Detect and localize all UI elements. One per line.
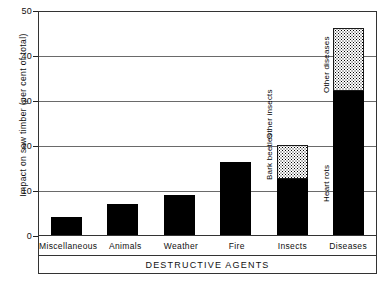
y-tick-label-10: 10	[8, 186, 32, 196]
bar-segment-other-insects	[277, 145, 308, 179]
x-category-animals: Animals	[97, 236, 153, 255]
y-tick-label-50: 50	[8, 6, 32, 16]
bar-segment-fire	[220, 162, 251, 235]
x-category-diseases: Diseases	[320, 236, 376, 255]
y-tick-label-20: 20	[8, 141, 32, 151]
x-axis-category-strip: Miscellaneous Animals Weather Fire Insec…	[38, 236, 377, 256]
bar-miscellaneous	[51, 217, 82, 235]
segment-label-heart-rots: Heart rots	[322, 165, 331, 202]
bar-animals	[107, 204, 138, 235]
bar-insects	[277, 145, 308, 235]
y-tick-label-40: 40	[8, 51, 32, 61]
bar-segment-bark-beetles	[277, 179, 308, 235]
x-category-fire: Fire	[209, 236, 265, 255]
plot-area: Bark beetles Other insects Heart rots Ot…	[38, 11, 377, 236]
bar-segment-miscellaneous	[51, 217, 82, 235]
bar-segment-heart-rots	[333, 91, 364, 235]
bar-segment-animals	[107, 204, 138, 235]
y-tick-label-30: 30	[8, 96, 32, 106]
bar-segment-weather	[164, 195, 195, 235]
x-category-miscellaneous: Miscellaneous	[39, 236, 97, 255]
x-category-weather: Weather	[153, 236, 209, 255]
segment-label-bark-beetles: Bark beetles	[265, 133, 274, 180]
x-category-insects: Insects	[265, 236, 321, 255]
segment-label-other-diseases: Other diseases	[322, 36, 331, 93]
x-axis-title: DESTRUCTIVE AGENTS	[38, 256, 377, 274]
bar-segment-other-diseases	[333, 28, 364, 91]
bar-fire	[220, 162, 251, 235]
chart-figure: Impact on saw timber (per cent of total)…	[0, 0, 392, 285]
segment-label-other-insects: Other insects	[265, 89, 274, 139]
gridline-20	[39, 146, 376, 147]
bar-diseases	[333, 28, 364, 235]
y-tick-label-0: 0	[8, 231, 32, 241]
bar-weather	[164, 195, 195, 235]
gridline-30	[39, 101, 376, 102]
